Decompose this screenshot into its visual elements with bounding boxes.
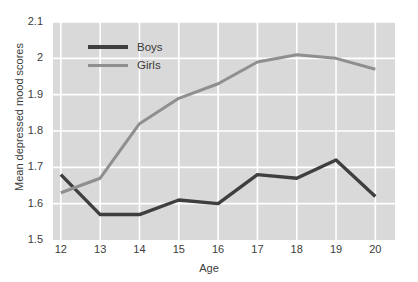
x-tick-label: 12 <box>55 244 67 255</box>
x-tick-label: 18 <box>291 244 303 255</box>
x-tick-label: 16 <box>212 244 224 255</box>
chart-legend: BoysGirls <box>88 38 206 74</box>
y-tick-label: 1.8 <box>0 125 49 136</box>
legend-item-girls: Girls <box>88 56 206 74</box>
y-tick-label: 2.1 <box>0 16 49 27</box>
legend-item-boys: Boys <box>88 38 206 56</box>
x-axis-tick-labels: 121314151617181920 <box>0 244 418 260</box>
legend-swatch-boys <box>88 45 128 49</box>
x-tick-label: 17 <box>251 244 263 255</box>
chart-figure: 2.121.91.81.71.61.5 121314151617181920 A… <box>0 0 418 282</box>
x-tick-label: 14 <box>133 244 145 255</box>
y-tick-label: 2 <box>0 52 49 63</box>
y-tick-label: 1.9 <box>0 89 49 100</box>
y-tick-label: 1.7 <box>0 161 49 172</box>
x-axis-title: Age <box>0 262 418 274</box>
legend-swatch-girls <box>88 64 128 67</box>
y-axis-tick-labels: 2.121.91.81.71.61.5 <box>0 0 49 282</box>
y-tick-label: 1.6 <box>0 198 49 209</box>
legend-label-boys: Boys <box>137 41 163 53</box>
x-tick-label: 15 <box>173 244 185 255</box>
x-tick-label: 20 <box>369 244 381 255</box>
x-tick-label: 13 <box>94 244 106 255</box>
x-tick-label: 19 <box>330 244 342 255</box>
legend-label-girls: Girls <box>137 59 161 71</box>
